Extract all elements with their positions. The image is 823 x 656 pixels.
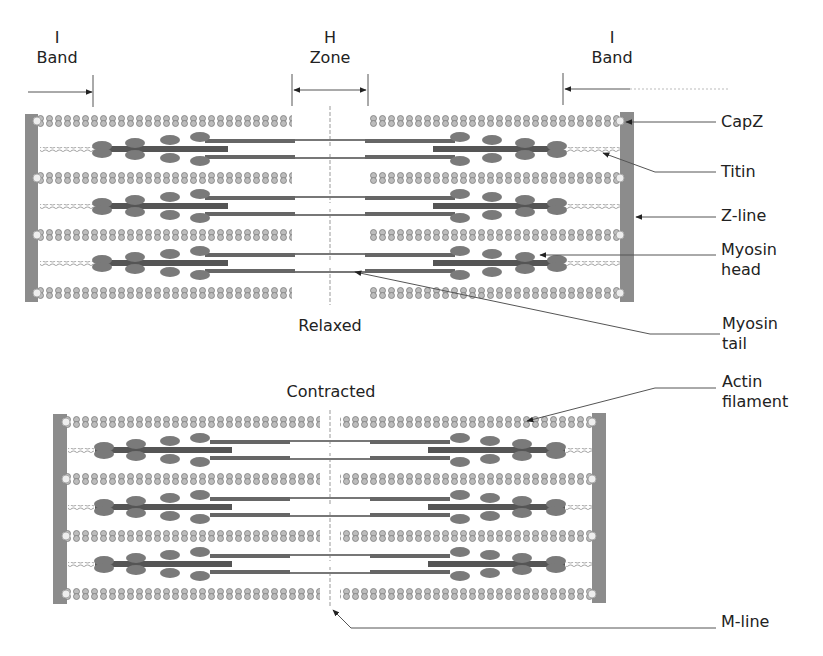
i-band-left-marker: [28, 75, 93, 107]
contracted-sarcomere: [53, 410, 606, 608]
h-zone-marker: [292, 74, 368, 106]
actin-filament-line2: filament: [722, 392, 788, 412]
relaxed-sarcomere: [25, 106, 634, 305]
myosin-head-line1: Myosin: [721, 240, 777, 260]
i-band-right-line2: Band: [591, 48, 632, 68]
z-line-right: [592, 413, 606, 603]
z-line-left: [53, 414, 67, 604]
actin-filament-label: Actin filament: [722, 372, 788, 412]
z-line-right: [620, 112, 634, 302]
myosin-head-line2: head: [721, 260, 777, 280]
titin-label: Titin: [721, 162, 756, 182]
sarcomere-diagram: [0, 0, 823, 656]
i-band-left-line1: I: [36, 28, 77, 48]
capz-label: CapZ: [721, 112, 763, 132]
i-band-right-marker: [563, 73, 730, 105]
m-line-label: M-line: [721, 612, 769, 632]
i-band-left-label: I Band: [36, 28, 77, 68]
contracted-label: Contracted: [287, 382, 376, 402]
relaxed-label: Relaxed: [298, 316, 361, 336]
h-zone-line2: Zone: [310, 48, 351, 68]
titin-leader: [603, 153, 716, 172]
h-zone-line1: H: [310, 28, 351, 48]
myosin-head-label: Myosin head: [721, 240, 777, 280]
z-line-label: Z-line: [721, 206, 766, 226]
myosin-tail-line2: tail: [722, 334, 778, 354]
i-band-right-line1: I: [591, 28, 632, 48]
myosin-tail-leader: [355, 272, 720, 334]
h-zone-label: H Zone: [310, 28, 351, 68]
i-band-right-label: I Band: [591, 28, 632, 68]
myosin-tail-line1: Myosin: [722, 314, 778, 334]
m-line-leader: [333, 610, 716, 628]
z-line-left: [25, 114, 38, 302]
i-band-left-line2: Band: [36, 48, 77, 68]
myosin-tail-label: Myosin tail: [722, 314, 778, 354]
actin-filament-line1: Actin: [722, 372, 788, 392]
